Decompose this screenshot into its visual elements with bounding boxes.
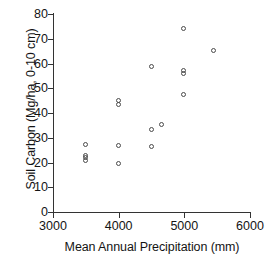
data-point-marker — [116, 143, 121, 148]
data-point-marker — [149, 64, 154, 69]
data-point-marker — [83, 142, 88, 147]
y-tick-label-wrap: 80 — [0, 8, 48, 20]
y-tick-label: 10 — [20, 181, 48, 193]
y-tick-label: 70 — [20, 33, 48, 45]
x-axis-spine — [53, 212, 251, 213]
y-tick-label: 40 — [20, 107, 48, 119]
data-point-marker — [149, 144, 154, 149]
data-point-marker — [181, 71, 186, 76]
y-tick-label: 50 — [20, 82, 48, 94]
x-tick-mark — [184, 213, 185, 218]
data-point-marker — [116, 161, 121, 166]
y-tick-label-wrap: 50 — [0, 82, 48, 94]
x-tick-mark — [250, 213, 251, 218]
x-tick-label: 6000 — [225, 219, 275, 233]
data-point-marker — [181, 92, 186, 97]
data-point-marker — [149, 127, 154, 132]
data-point-marker — [159, 122, 164, 127]
data-point-marker — [83, 158, 88, 163]
y-tick-label: 80 — [20, 8, 48, 20]
y-tick-label-wrap: 40 — [0, 107, 48, 119]
data-point-marker — [211, 48, 216, 53]
y-tick-label-wrap: 30 — [0, 132, 48, 144]
x-tick-label: 3000 — [28, 219, 78, 233]
data-point-marker — [116, 102, 121, 107]
plot-area — [53, 14, 250, 212]
x-axis-label: Mean Annual Precipitation (mm) — [40, 240, 264, 254]
data-point-marker — [181, 26, 186, 31]
y-tick-label: 20 — [20, 157, 48, 169]
y-tick-label-wrap: 10 — [0, 181, 48, 193]
y-tick-label: 60 — [20, 58, 48, 70]
x-tick-mark — [119, 213, 120, 218]
x-tick-label: 5000 — [159, 219, 209, 233]
y-tick-label: 30 — [20, 132, 48, 144]
x-tick-label: 4000 — [94, 219, 144, 233]
y-tick-label: 0 — [20, 206, 48, 218]
y-tick-label-wrap: 70 — [0, 33, 48, 45]
y-tick-label-wrap: 60 — [0, 58, 48, 70]
y-tick-label-wrap: 20 — [0, 157, 48, 169]
y-tick-label-wrap: 0 — [0, 206, 48, 218]
scatter-plot-figure: Soil Carbon (Mg/ha, 0-10 cm) 01020304050… — [0, 0, 277, 262]
x-tick-mark — [53, 213, 54, 218]
